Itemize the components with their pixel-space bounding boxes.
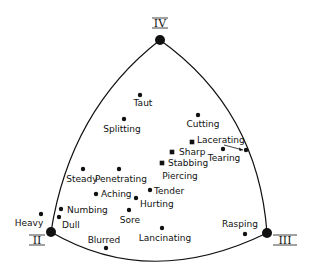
lacerating-square-point — [190, 140, 195, 145]
lancinating-point — [160, 226, 164, 230]
penetrating-label: Penetrating — [95, 174, 147, 184]
steady-point — [81, 167, 85, 171]
cutting-point — [196, 113, 200, 117]
aching-point — [94, 192, 98, 196]
stabbing-label: Stabbing — [168, 158, 208, 168]
vertex-iii-node — [262, 228, 272, 238]
vertex-ii-node — [46, 227, 56, 237]
steady-label: Steady — [66, 174, 98, 184]
tearing-label: Tearing — [207, 153, 241, 163]
tearing-point — [221, 147, 225, 151]
taut-point — [138, 93, 142, 97]
sore-label: Sore — [120, 215, 141, 225]
hurting-label: Hurting — [140, 199, 174, 209]
vertex-iv-node — [155, 35, 165, 45]
lacerating-label: Lacerating — [197, 135, 245, 145]
pain-descriptor-diagram: IVIIIII TautSplittingCuttingLaceratingTe… — [0, 0, 310, 276]
heavy-label: Heavy — [15, 218, 44, 228]
blurred-point — [104, 246, 108, 250]
splitting-label: Splitting — [103, 124, 140, 134]
blurred-label: Blurred — [88, 235, 121, 245]
dull-label: Dull — [62, 220, 80, 230]
tender-point — [148, 188, 152, 192]
hurting-point — [134, 196, 138, 200]
penetrating-point — [117, 167, 121, 171]
cutting-label: Cutting — [187, 119, 220, 129]
taut-label: Taut — [133, 98, 153, 108]
dull-point — [57, 215, 61, 219]
tearing-secondary-point — [244, 148, 248, 152]
splitting-point — [122, 117, 126, 121]
lancinating-label: Lancinating — [139, 233, 191, 243]
rasping-point — [243, 232, 247, 236]
tender-label: Tender — [153, 186, 184, 196]
aching-label: Aching — [101, 189, 132, 199]
stabbing-square-point — [160, 161, 165, 166]
descriptor-points: TautSplittingCuttingLaceratingTearingSha… — [15, 93, 258, 250]
arrowhead-icon — [239, 148, 243, 152]
annotation-group — [224, 145, 248, 152]
piercing-label: Piercing — [162, 171, 198, 181]
sharp-square-point — [170, 150, 175, 155]
sore-point — [127, 208, 131, 212]
numbing-point — [59, 207, 63, 211]
sharp-label: Sharp — [179, 147, 206, 157]
numbing-label: Numbing — [67, 205, 108, 215]
heavy-point — [39, 212, 43, 216]
rasping-label: Rasping — [222, 219, 258, 229]
